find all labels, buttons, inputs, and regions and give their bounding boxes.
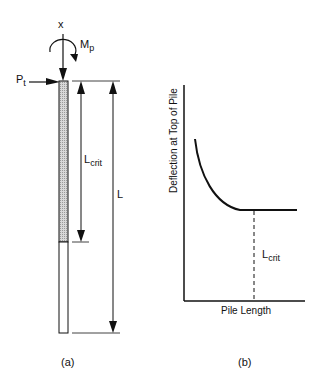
moment-label: Mp [80,38,94,50]
pile-shaded-segment [59,81,68,242]
axial-arrow-icon [59,68,67,81]
lateral-force-arrow-icon [46,78,60,85]
panel-a [29,34,120,333]
lcrit-label: Lcrit [84,153,102,165]
x-axis-label: Pile Length [221,305,271,316]
lcrit-chart-label: Lcrit [262,248,280,260]
deflection-curve [195,139,297,210]
length-label: L [117,188,123,200]
axis-x-label: x [58,18,64,30]
caption-b: (b) [238,356,251,368]
caption-a: (a) [61,356,74,368]
pile-unshaded-segment [59,242,68,333]
pile-diagram [0,0,318,381]
y-axis-label: Deflection at Top of Pile [168,88,179,193]
panel-b-chart [184,85,305,301]
force-label: Pt [16,73,26,85]
